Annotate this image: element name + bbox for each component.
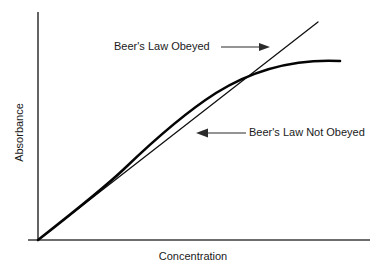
series-beers-law-not-obeyed xyxy=(38,61,340,240)
annotation-label-obeyed: Beer's Law Obeyed xyxy=(114,41,210,52)
annotation-arrow-not-obeyed xyxy=(196,129,246,138)
annotation-label-not-obeyed: Beer's Law Not Obeyed xyxy=(249,127,365,138)
y-axis-label-container: Absorbance xyxy=(8,80,30,190)
x-axis-label: Concentration xyxy=(0,251,386,262)
annotation-arrow-obeyed xyxy=(221,43,270,51)
beers-law-chart: Beer's Law Obeyed Beer's Law Not Obeyed … xyxy=(0,0,386,271)
y-axis-label: Absorbance xyxy=(14,78,25,188)
